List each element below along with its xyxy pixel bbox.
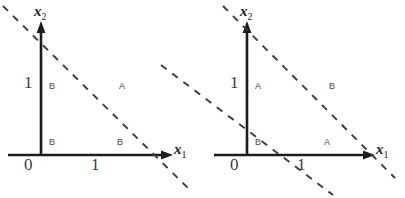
origin-tick-right: 0 xyxy=(230,156,239,173)
diagram-panel-right: x2 x1 0 1 1 A B B A xyxy=(203,0,405,198)
y-axis-name-right: x2 xyxy=(240,4,253,19)
x-axis-name-left: x1 xyxy=(174,142,187,157)
x-axis-tick-left: 1 xyxy=(91,156,100,173)
origin-tick-left: 0 xyxy=(24,156,33,173)
region-label-upper-right-left-panel: A xyxy=(119,82,125,91)
region-label-upper-left-right-panel: A xyxy=(255,82,261,91)
y-axis-tick-left: 1 xyxy=(24,74,33,91)
y-axis-left xyxy=(37,21,46,155)
diagram-panel-left: x2 x1 0 1 1 B A B B xyxy=(0,0,202,198)
figure-canvas: x2 x1 0 1 1 B A B B xyxy=(0,0,405,198)
region-label-lower-right-left-panel: B xyxy=(117,138,123,147)
region-label-upper-left-left-panel: B xyxy=(49,82,55,91)
region-label-lower-left-right-panel: B xyxy=(255,138,261,147)
x-axis-tick-right: 1 xyxy=(297,156,306,173)
y-axis-right xyxy=(243,21,252,155)
region-label-lower-left-left-panel: B xyxy=(49,138,55,147)
y-axis-tick-right: 1 xyxy=(230,74,239,91)
x-axis-name-right: x1 xyxy=(376,142,389,157)
region-label-lower-right-right-panel: A xyxy=(324,138,330,147)
region-label-upper-right-right-panel: B xyxy=(329,82,335,91)
dashed-constraint-line-1-right xyxy=(223,6,395,178)
y-axis-name-left: x2 xyxy=(34,4,47,19)
